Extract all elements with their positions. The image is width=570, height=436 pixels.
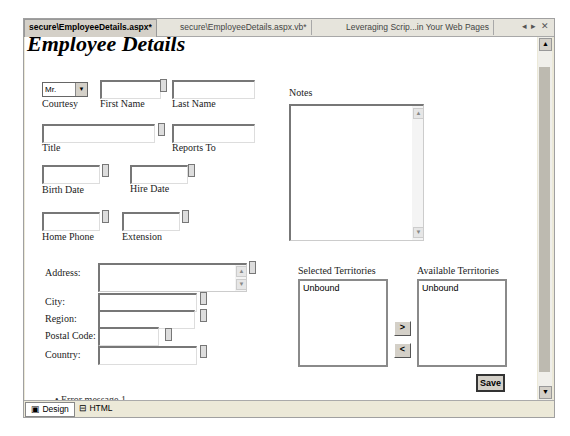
hire-date-input[interactable] — [130, 165, 188, 184]
vertical-scrollbar[interactable]: ▲ ▼ — [538, 37, 552, 400]
selected-territories-list[interactable]: Unbound — [298, 279, 388, 367]
title-label: Title — [42, 142, 61, 153]
address-textarea[interactable]: ▲ ▼ — [98, 263, 247, 292]
first-name-input[interactable] — [100, 80, 161, 99]
first-name-validator-icon — [160, 79, 167, 92]
chevron-down-icon[interactable]: ▼ — [75, 83, 87, 96]
last-name-label: Last Name — [172, 98, 216, 109]
birth-date-validator-icon — [102, 164, 109, 177]
address-scrollbar[interactable]: ▲ ▼ — [235, 265, 246, 291]
last-name-input[interactable] — [172, 80, 255, 99]
title-input[interactable] — [42, 124, 155, 143]
notes-scrollbar[interactable]: ▲ ▼ — [412, 106, 423, 240]
scroll-up-icon[interactable]: ▲ — [413, 108, 424, 119]
title-validator-icon — [158, 123, 165, 136]
first-name-label: First Name — [100, 98, 145, 109]
tab-html-label: HTML — [89, 403, 112, 413]
courtesy-select[interactable]: Mr. ▼ — [42, 82, 88, 97]
scrollbar-thumb[interactable] — [539, 67, 550, 372]
home-phone-validator-icon — [102, 210, 109, 223]
tab-employee-details-aspx[interactable]: secure\EmployeeDetails.aspx* — [24, 19, 157, 37]
editor-window: secure\EmployeeDetails.aspx* secure\Empl… — [23, 18, 555, 418]
courtesy-value: Mr. — [45, 85, 56, 94]
list-item[interactable]: Unbound — [303, 283, 383, 293]
tab-leveraging-scripts[interactable]: Leveraging Scrip...in Your Web Pages — [342, 20, 494, 35]
available-territories-list[interactable]: Unbound — [417, 279, 507, 367]
country-label: Country: — [45, 349, 81, 360]
selected-territories-label: Selected Territories — [298, 265, 376, 276]
add-territory-button[interactable]: > — [394, 321, 411, 336]
scroll-up-icon[interactable]: ▲ — [236, 266, 247, 277]
tab-employee-details-vb[interactable]: secure\EmployeeDetails.aspx.vb* — [176, 20, 312, 35]
postal-code-label: Postal Code: — [45, 330, 96, 341]
city-label: City: — [45, 296, 65, 307]
design-surface[interactable]: Employee Details Mr. ▼ Courtesy First Na… — [25, 37, 537, 400]
extension-input[interactable] — [122, 212, 180, 231]
scroll-down-icon[interactable]: ▼ — [236, 279, 247, 290]
hire-date-validator-icon — [188, 164, 195, 177]
address-validator-icon — [249, 261, 256, 274]
region-label: Region: — [45, 313, 77, 324]
save-button[interactable]: Save — [476, 374, 505, 392]
country-validator-icon — [200, 345, 207, 358]
remove-territory-button[interactable]: < — [394, 343, 411, 358]
available-territories-label: Available Territories — [417, 265, 499, 276]
scroll-down-icon[interactable]: ▼ — [413, 227, 424, 238]
reports-to-label: Reports To — [172, 142, 216, 153]
postal-code-input[interactable] — [98, 327, 159, 346]
hire-date-label: Hire Date — [130, 183, 169, 194]
document-tab-bar: secure\EmployeeDetails.aspx* secure\Empl… — [24, 19, 554, 37]
city-validator-icon — [200, 292, 207, 305]
birth-date-label: Birth Date — [42, 184, 84, 195]
scroll-up-icon[interactable]: ▲ — [539, 38, 552, 51]
view-tab-bar: ▣ Design ⊟ HTML — [24, 400, 554, 417]
notes-textarea[interactable]: ▲ ▼ — [289, 104, 424, 241]
html-icon: ⊟ — [79, 403, 87, 413]
list-item[interactable]: Unbound — [422, 283, 502, 293]
extension-validator-icon — [182, 210, 189, 223]
page-title: Employee Details — [27, 37, 187, 57]
home-phone-label: Home Phone — [42, 231, 94, 242]
extension-label: Extension — [122, 231, 162, 242]
address-label: Address: — [45, 267, 81, 278]
reports-to-input[interactable] — [172, 124, 255, 143]
courtesy-label: Courtesy — [42, 98, 78, 109]
birth-date-input[interactable] — [42, 165, 100, 184]
close-icon[interactable]: ✕ — [541, 21, 549, 31]
tab-prev-icon[interactable]: ◂ — [522, 21, 527, 31]
tab-next-icon[interactable]: ▸ — [531, 21, 536, 31]
design-icon: ▣ — [31, 404, 40, 414]
tab-design[interactable]: ▣ Design — [25, 402, 75, 417]
tab-html[interactable]: ⊟ HTML — [74, 402, 118, 415]
postal-code-validator-icon — [165, 328, 172, 341]
region-validator-icon — [200, 309, 207, 322]
tab-design-label: Design — [42, 404, 68, 414]
home-phone-input[interactable] — [42, 212, 100, 231]
scroll-down-icon[interactable]: ▼ — [539, 386, 552, 399]
country-input[interactable] — [98, 346, 197, 365]
notes-label: Notes — [289, 87, 312, 98]
